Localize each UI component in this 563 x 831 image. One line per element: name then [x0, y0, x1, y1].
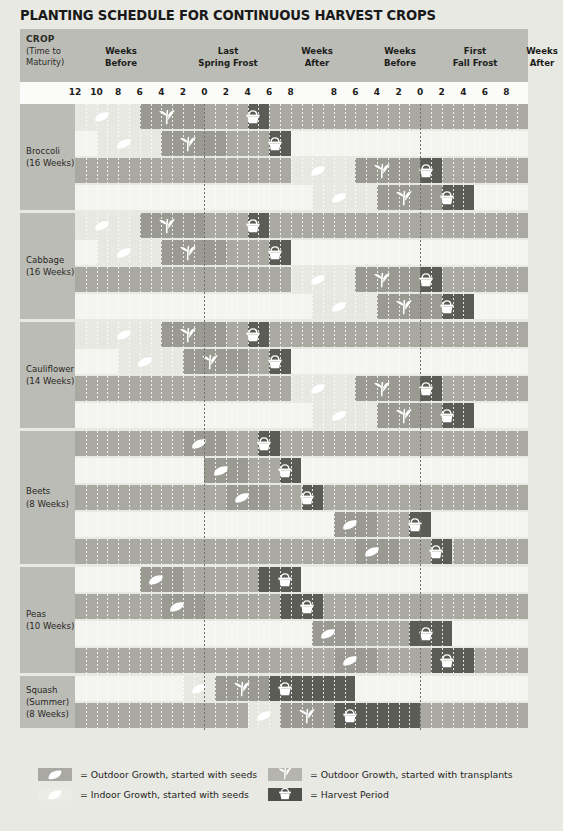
- grid-line: [302, 539, 303, 564]
- grid-line: [517, 349, 518, 374]
- grid-line: [97, 676, 98, 701]
- segment-outdoor[interactable]: [248, 458, 280, 483]
- grid-line: [442, 158, 443, 183]
- sprout-icon: [175, 245, 201, 260]
- grid-line: [453, 267, 454, 292]
- grid-line: [517, 594, 518, 619]
- grid-line: [183, 403, 184, 428]
- grid-line: [355, 158, 356, 183]
- grid-line: [129, 594, 130, 619]
- axis-tick-15: 2: [387, 87, 411, 97]
- leaf-icon: [256, 710, 272, 721]
- grid-line: [399, 267, 400, 292]
- grid-line: [269, 104, 270, 129]
- grid-line: [388, 104, 389, 129]
- grid-line: [226, 648, 227, 673]
- grid-line: [183, 621, 184, 646]
- grid-line: [517, 376, 518, 401]
- grid-line: [485, 131, 486, 156]
- grid-line: [194, 512, 195, 537]
- grid-line: [183, 539, 184, 564]
- grid-line: [388, 131, 389, 156]
- grid-line: [345, 431, 346, 456]
- axis-tick-row: 1210864202468864202468: [20, 82, 528, 104]
- grid-line: [312, 104, 313, 129]
- schedule-row: [75, 539, 528, 564]
- grid-line: [474, 322, 475, 347]
- grid-line: [453, 676, 454, 701]
- grid-line: [302, 567, 303, 592]
- grid-line: [453, 376, 454, 401]
- grid-line: [431, 403, 432, 428]
- grid-line: [107, 621, 108, 646]
- segment-outdoor[interactable]: [474, 648, 528, 673]
- grid-line: [269, 539, 270, 564]
- grid-line: [463, 376, 464, 401]
- grid-line: [485, 485, 486, 510]
- grid-line: [97, 322, 98, 347]
- grid-line: [226, 267, 227, 292]
- grid-line: [355, 131, 356, 156]
- grid-line: [302, 648, 303, 673]
- grid-line: [496, 267, 497, 292]
- grid-line: [237, 594, 238, 619]
- schedule-row: [75, 485, 528, 510]
- sprout-icon: [294, 708, 320, 723]
- segment-outdoor[interactable]: [377, 648, 431, 673]
- grid-line: [183, 567, 184, 592]
- grid-line: [377, 349, 378, 374]
- schedule-row: [75, 158, 528, 183]
- grid-line: [312, 458, 313, 483]
- grid-line: [409, 431, 410, 456]
- grid-line: [517, 185, 518, 210]
- segment-outdoor[interactable]: [280, 431, 528, 456]
- grid-line: [280, 294, 281, 319]
- grid-line: [258, 349, 259, 374]
- grid-line: [345, 131, 346, 156]
- grid-line: [366, 322, 367, 347]
- segment-outdoor[interactable]: [377, 512, 409, 537]
- grid-line: [291, 158, 292, 183]
- grid-line: [517, 240, 518, 265]
- grid-line: [140, 703, 141, 728]
- grid-line: [194, 267, 195, 292]
- segment-outdoor[interactable]: [399, 539, 431, 564]
- grid-line: [323, 567, 324, 592]
- grid-line: [496, 703, 497, 728]
- axis-tick-3: 6: [128, 87, 152, 97]
- grid-line: [355, 539, 356, 564]
- grid-line: [399, 240, 400, 265]
- segment-outdoor[interactable]: [269, 485, 301, 510]
- segment-outdoor[interactable]: [355, 621, 409, 646]
- grid-line: [194, 349, 195, 374]
- grid-line: [226, 240, 227, 265]
- leaf-icon: [331, 410, 347, 421]
- grid-line: [323, 485, 324, 510]
- sprout-icon: [154, 109, 180, 124]
- grid-line: [302, 431, 303, 456]
- grid-line: [453, 431, 454, 456]
- segment-outdoor[interactable]: [323, 485, 528, 510]
- grid-line: [302, 267, 303, 292]
- grid-line: [258, 403, 259, 428]
- segment-outdoor[interactable]: [323, 594, 528, 619]
- grid-line: [399, 567, 400, 592]
- grid-line: [431, 131, 432, 156]
- grid-line: [323, 703, 324, 728]
- grid-line: [215, 594, 216, 619]
- grid-line: [86, 458, 87, 483]
- grid-line: [194, 458, 195, 483]
- grid-line: [463, 185, 464, 210]
- grid-line: [453, 512, 454, 537]
- segment-outdoor[interactable]: [226, 431, 258, 456]
- grid-line: [366, 403, 367, 428]
- grid-line: [280, 322, 281, 347]
- grid-line: [463, 131, 464, 156]
- grid-line: [496, 621, 497, 646]
- grid-line: [86, 485, 87, 510]
- grid-line: [323, 458, 324, 483]
- grid-line: [237, 403, 238, 428]
- grid-line: [248, 512, 249, 537]
- grid-line: [463, 621, 464, 646]
- header-group-line2: After: [284, 58, 350, 70]
